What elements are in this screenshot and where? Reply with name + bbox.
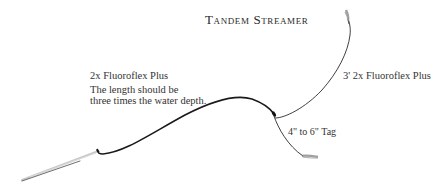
upper-fly: [345, 10, 349, 24]
fly-rod: [22, 152, 96, 181]
upper-line-label: 3' 2x Fluoroflex Plus: [343, 70, 431, 82]
upper-line: [275, 18, 350, 118]
main-line-label: 2x Fluoroflex Plus: [90, 70, 168, 82]
diagram-title: Tandem Streamer: [205, 12, 308, 28]
tag-fly: [302, 156, 318, 158]
note-line-1: The length should be: [90, 84, 230, 95]
note-line-2: three times the water depth.: [90, 95, 230, 106]
main-line-note: The length should be three times the wat…: [90, 84, 230, 106]
tag-label: 4" to 6" Tag: [288, 126, 336, 138]
tandem-streamer-diagram: Tandem Streamer 2x Fluoroflex Plus The l…: [0, 0, 439, 192]
